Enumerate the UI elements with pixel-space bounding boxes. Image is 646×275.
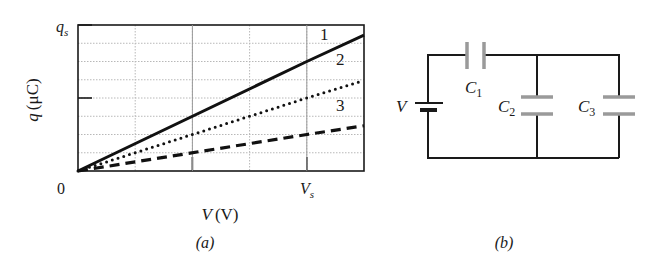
wire-left-upper [428, 55, 467, 103]
capacitor-c3-icon [603, 97, 635, 114]
x-axis-label: V(V) [202, 205, 239, 224]
capacitor-c1-label: C1 [465, 78, 482, 100]
panel-a-label: (a) [196, 234, 215, 252]
chart-panel: 123 qs 0 Vs V(V) q(μC) (a) [23, 18, 364, 252]
chart-series-labels: 123 [320, 25, 345, 115]
series-label-3: 3 [336, 96, 345, 115]
series-label-1: 1 [320, 25, 329, 44]
circuit-panel: V C1 C2 C3 (b) [396, 42, 635, 252]
battery-label: V [396, 97, 409, 116]
capacitor-c2-icon [521, 97, 553, 114]
battery-icon [415, 103, 443, 110]
figure: 123 qs 0 Vs V(V) q(μC) (a) [0, 0, 646, 275]
series-line-2 [78, 80, 364, 171]
origin-label: 0 [57, 180, 65, 197]
capacitor-c2-label: C2 [498, 97, 515, 119]
y-axis-label: q(μC) [23, 78, 42, 121]
series-line-1 [78, 35, 364, 171]
y-top-tick-label: qs [56, 18, 68, 38]
series-line-3 [78, 126, 364, 171]
capacitor-c1-icon [467, 42, 484, 69]
wire-top-right [484, 55, 619, 97]
panel-b-label: (b) [495, 234, 514, 252]
capacitor-c3-label: C3 [578, 97, 595, 119]
chart-series [78, 35, 364, 171]
series-label-2: 2 [336, 50, 345, 69]
x-tick-label-vs: Vs [300, 180, 314, 200]
